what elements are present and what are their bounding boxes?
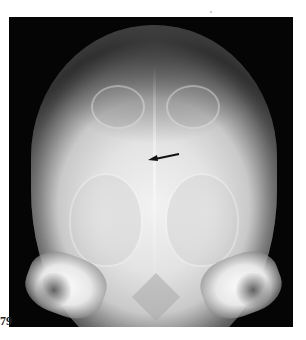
- annotation-arrow-icon: [146, 152, 180, 162]
- orbit-left: [71, 175, 141, 265]
- film-speck: [210, 11, 212, 13]
- orbit-right: [167, 175, 237, 265]
- skull-silhouette: [31, 25, 277, 327]
- mastoid-right: [236, 273, 270, 307]
- midline-septum: [153, 65, 156, 285]
- radiograph-image: [9, 17, 293, 327]
- mastoid-left: [37, 273, 71, 307]
- figure-number: 79: [0, 314, 12, 329]
- frontal-sinus-right: [166, 85, 220, 129]
- frontal-sinus-left: [91, 85, 145, 129]
